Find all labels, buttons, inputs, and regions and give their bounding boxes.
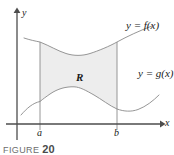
x-tick-label-a: a [37,128,42,138]
curve-label-f: y = f(x) [126,20,159,31]
curve-label-g: y = g(x) [138,68,174,79]
x-tick-label-b: b [114,128,119,138]
y-axis-arrow-icon [14,8,21,14]
figure-caption-number: 20 [42,143,54,155]
figure-caption-prefix: FIGURE [3,145,39,155]
figure-container: y = f(x) y = g(x) R y x a b FIGURE 20 [0,0,174,155]
x-axis-label: x [165,118,169,128]
figure-caption: FIGURE 20 [3,143,55,155]
region-label-R: R [76,72,83,83]
y-axis-label: y [22,8,26,18]
